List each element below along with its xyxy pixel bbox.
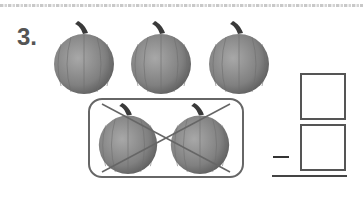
minus-sign bbox=[273, 156, 289, 158]
answer-box-top[interactable] bbox=[300, 73, 346, 120]
pumpkin-2 bbox=[130, 20, 192, 94]
header-dotted-line bbox=[0, 4, 363, 7]
problem-number: 3. bbox=[17, 23, 37, 51]
pumpkin-1 bbox=[53, 20, 115, 94]
pumpkin-3 bbox=[208, 20, 270, 94]
answer-box-bottom[interactable] bbox=[300, 124, 346, 171]
answer-line bbox=[272, 175, 347, 177]
cross-out-x-icon bbox=[88, 98, 244, 178]
